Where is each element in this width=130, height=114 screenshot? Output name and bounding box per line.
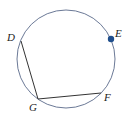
chord-DG	[21, 41, 38, 99]
chord-GF	[38, 93, 101, 99]
label-D: D	[6, 31, 15, 43]
circle-diagram: D E F G	[0, 0, 130, 114]
label-G: G	[29, 101, 37, 113]
label-F: F	[103, 91, 111, 103]
label-E: E	[114, 27, 122, 39]
point-E-marker	[108, 36, 114, 42]
